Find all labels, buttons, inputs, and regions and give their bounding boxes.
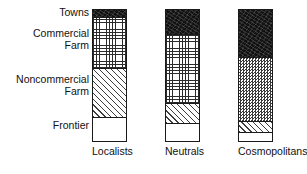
- bar-localists: [92, 9, 127, 142]
- bar-segment-localists-commercial-farm: [93, 17, 126, 68]
- category-label-towns: Towns: [59, 7, 89, 19]
- category-label-frontier: Frontier: [53, 120, 89, 132]
- category-label-noncommercial-farm: Noncommercial Farm: [16, 74, 89, 97]
- bar-segment-cosmopolitans-towns: [239, 10, 272, 57]
- bar-segment-cosmopolitans-noncommercial-farm: [239, 121, 272, 131]
- bar-segment-localists-noncommercial-farm: [93, 68, 126, 118]
- bar-segment-neutrals-commercial-farm: [166, 34, 199, 103]
- bar-segment-cosmopolitans-frontier: [239, 132, 272, 141]
- bar-neutrals: [165, 9, 200, 142]
- series-label-localists: Localists: [92, 145, 127, 157]
- stacked-bar-chart: Towns Commercial Farm Noncommercial Farm…: [0, 0, 307, 174]
- series-label-cosmopolitans: Cosmopolitans: [238, 145, 273, 157]
- bar-segment-neutrals-towns: [166, 10, 199, 34]
- bar-segment-neutrals-noncommercial-farm: [166, 103, 199, 123]
- category-label-commercial-farm: Commercial Farm: [33, 28, 89, 51]
- series-label-neutrals: Neutrals: [165, 145, 200, 157]
- bar-segment-localists-frontier: [93, 117, 126, 141]
- bar-cosmopolitans: [238, 9, 273, 142]
- bar-segment-cosmopolitans-commercial-farm: [239, 57, 272, 121]
- bar-segment-neutrals-frontier: [166, 123, 199, 141]
